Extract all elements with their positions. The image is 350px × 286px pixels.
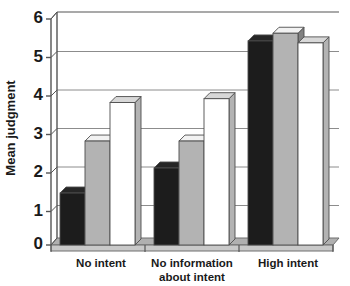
bar-side: [229, 93, 235, 245]
bar-2-2: [298, 37, 329, 245]
bar-front: [179, 141, 204, 245]
y-tick-label-4: 4: [34, 85, 44, 104]
tick-1: [51, 206, 57, 212]
y-axis-title: Mean judgment: [3, 80, 18, 176]
tick-4: [51, 90, 57, 96]
y-tick-label-0: 0: [34, 234, 43, 253]
bar-front: [60, 193, 85, 245]
tick-3: [51, 129, 57, 135]
bar-top: [204, 93, 235, 99]
category-label-0: No intent: [76, 257, 126, 269]
y-axis: [46, 12, 57, 245]
bar-side: [135, 97, 141, 245]
y-tick-label-3: 3: [34, 124, 43, 143]
y-tick-label-5: 5: [34, 47, 43, 66]
bar-front: [110, 103, 135, 245]
tick-2: [51, 167, 57, 173]
y-tick-label-2: 2: [34, 162, 43, 181]
bar-front: [85, 141, 110, 245]
x-category-labels: No intent No information about intent Hi…: [76, 257, 318, 283]
bar-side: [323, 37, 329, 245]
bar-front: [248, 41, 273, 245]
bar-front: [273, 33, 298, 245]
category-label-2: High intent: [258, 257, 318, 269]
tick-5: [51, 52, 57, 58]
bar-front: [154, 168, 179, 245]
chart-svg: 6 5 4 3 2 1 0 No intent No information a…: [0, 0, 350, 286]
bar-top: [298, 37, 329, 43]
mean-judgment-bar-chart: 6 5 4 3 2 1 0 No intent No information a…: [0, 0, 350, 286]
bar-1-2: [204, 93, 235, 245]
category-label-1-line1: No information: [151, 257, 233, 269]
category-label-1-line2: about intent: [159, 271, 225, 283]
bar-top: [273, 27, 304, 33]
bar-top: [110, 97, 141, 103]
tick-6: [51, 12, 57, 19]
y-tick-labels: 6 5 4 3 2 1 0: [34, 8, 44, 253]
y-tick-label-6: 6: [34, 8, 43, 27]
bar-0-2: [110, 97, 141, 245]
y-tick-label-1: 1: [34, 201, 43, 220]
bar-front: [204, 99, 229, 245]
bar-front: [298, 43, 323, 245]
